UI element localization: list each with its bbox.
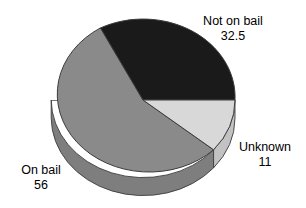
pie-label-unknown-value: 11: [230, 155, 300, 170]
pie-label-on-bail-name: On bail: [8, 163, 74, 178]
pie-label-unknown-name: Unknown: [230, 140, 300, 155]
pie-label-not-on-bail: Not on bail 32.5: [190, 14, 276, 44]
pie-label-not-on-bail-name: Not on bail: [190, 14, 276, 29]
pie-label-unknown: Unknown 11: [230, 140, 300, 170]
pie-label-on-bail: On bail 56: [8, 163, 74, 193]
pie-label-not-on-bail-value: 32.5: [190, 29, 276, 44]
pie-label-on-bail-value: 56: [8, 178, 74, 193]
pie-chart-figure: Not on bail 32.5 Unknown 11 On bail 56: [0, 0, 306, 208]
